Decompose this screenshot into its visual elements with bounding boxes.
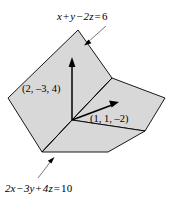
equation-minus-operator: − bbox=[16, 182, 24, 194]
equation-minus-operator: − bbox=[75, 10, 83, 22]
equation-constant: 10 bbox=[61, 182, 72, 194]
equation-equals-operator: = bbox=[53, 182, 61, 194]
equation-plus-operator: + bbox=[35, 182, 43, 194]
geometry-figure: x+y−2z=6 2x−3y+4z=10 (2, –3, 4) (1, 1, –… bbox=[0, 0, 180, 202]
equation-equals-operator: = bbox=[94, 10, 102, 22]
equation-z-term: 4z bbox=[43, 182, 53, 194]
equation-x-term: 2x bbox=[5, 182, 16, 194]
equation-z-term: 2z bbox=[84, 10, 94, 22]
equation-constant: 6 bbox=[102, 10, 108, 22]
vector-right-label: (1, 1, –2) bbox=[90, 114, 129, 125]
plane-bottom-equation-label: 2x−3y+4z=10 bbox=[5, 183, 72, 194]
leader-line-bottom bbox=[38, 157, 55, 178]
equation-y-term: 3y bbox=[24, 182, 35, 194]
leader-line-top bbox=[84, 26, 106, 46]
vector-left-label: (2, –3, 4) bbox=[22, 84, 61, 95]
planes-diagram bbox=[0, 0, 180, 202]
plane-top-equation-label: x+y−2z=6 bbox=[57, 11, 108, 22]
